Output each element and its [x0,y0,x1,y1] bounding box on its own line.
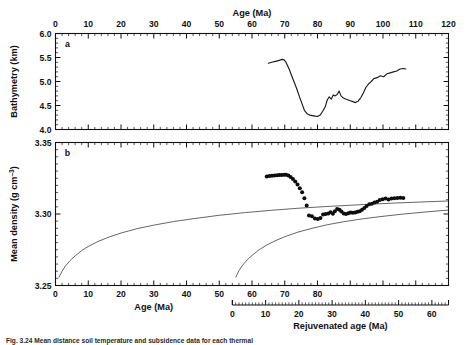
panel-a-xtick-label: 110 [409,19,423,29]
panel-b-axis-title-density: Mean density (g cm–3) [7,166,19,262]
panel-b-xtick-label: 70 [280,289,290,299]
data-point [305,203,309,207]
panel-b-ytick-label: 3.25 [35,281,52,291]
figure-container: 01020304050607080901001101204.04.55.05.5… [0,0,472,345]
panel-b-axis-title-age: Age (Ma) [134,302,173,312]
data-point [302,196,306,200]
data-point [296,183,300,187]
data-point [401,196,405,200]
figure-caption: Fig. 3.24 Mean distance soil temperature… [6,337,253,345]
panel-a-xtick-label: 70 [280,19,290,29]
rejuvenated-xtick-label: 60 [427,309,437,319]
panel-a-ytick-label: 4.5 [40,101,52,111]
rejuvenated-axis-title: Rejuvenated age (Ma) [293,321,387,331]
panel-a-xtick-label: 50 [214,19,224,29]
panel-a-xtick-label: 0 [53,19,58,29]
panel-a-xtick-label: 80 [313,19,323,29]
rejuvenated-xtick-label: 40 [361,309,371,319]
data-point [298,186,302,190]
panel-b-xtick-label: 10 [83,289,93,299]
panel-b-xtick-label: 60 [247,289,257,299]
data-point [318,216,322,220]
panel-a-xtick-label: 30 [149,19,159,29]
panel-a-xtick-label: 20 [116,19,126,29]
panel-b-xtick-label: 50 [214,289,224,299]
panel-b-xtick-label: 0 [53,289,58,299]
panel-b-xtick-label: 40 [182,289,192,299]
scientific-figure: 01020304050607080901001101204.04.55.05.5… [0,0,472,345]
panel-b-ytick-label: 3.30 [35,209,52,219]
panel-b-xtick-label: 20 [116,289,126,299]
rejuvenated-xtick-label: 10 [261,309,271,319]
panel-a-ytick-label: 5.0 [40,77,52,87]
rejuvenated-xtick-label: 20 [294,309,304,319]
panel-a-label: a [65,39,70,49]
panel-b-xtick-label: 80 [313,289,323,299]
panel-a-xtick-label: 60 [247,19,257,29]
rejuvenated-xtick-label: 0 [230,309,235,319]
panel-b-label: b [65,148,71,158]
panel-b-xtick-label: 30 [149,289,159,299]
panel-a-xtick-label: 40 [182,19,192,29]
rejuvenated-xtick-label: 50 [394,309,404,319]
panel-a-xtick-label: 10 [83,19,93,29]
panel-a-ytick-label: 5.5 [40,53,52,63]
panel-a-ytick-label: 6.0 [40,29,52,39]
panel-a-axis-title-age: Age (Ma) [233,8,272,18]
panel-a-axis-title-bathymetry: Bathymetry (km) [9,45,19,118]
figure-background [0,0,472,345]
panel-b-ytick-label: 3.35 [35,138,52,148]
data-point [300,190,304,194]
panel-a-xtick-label: 90 [345,19,355,29]
rejuvenated-xtick-label: 30 [327,309,337,319]
panel-a-xtick-label: 120 [441,19,456,29]
panel-a-ytick-label: 4.0 [40,125,52,135]
panel-a-xtick-label: 100 [376,19,391,29]
